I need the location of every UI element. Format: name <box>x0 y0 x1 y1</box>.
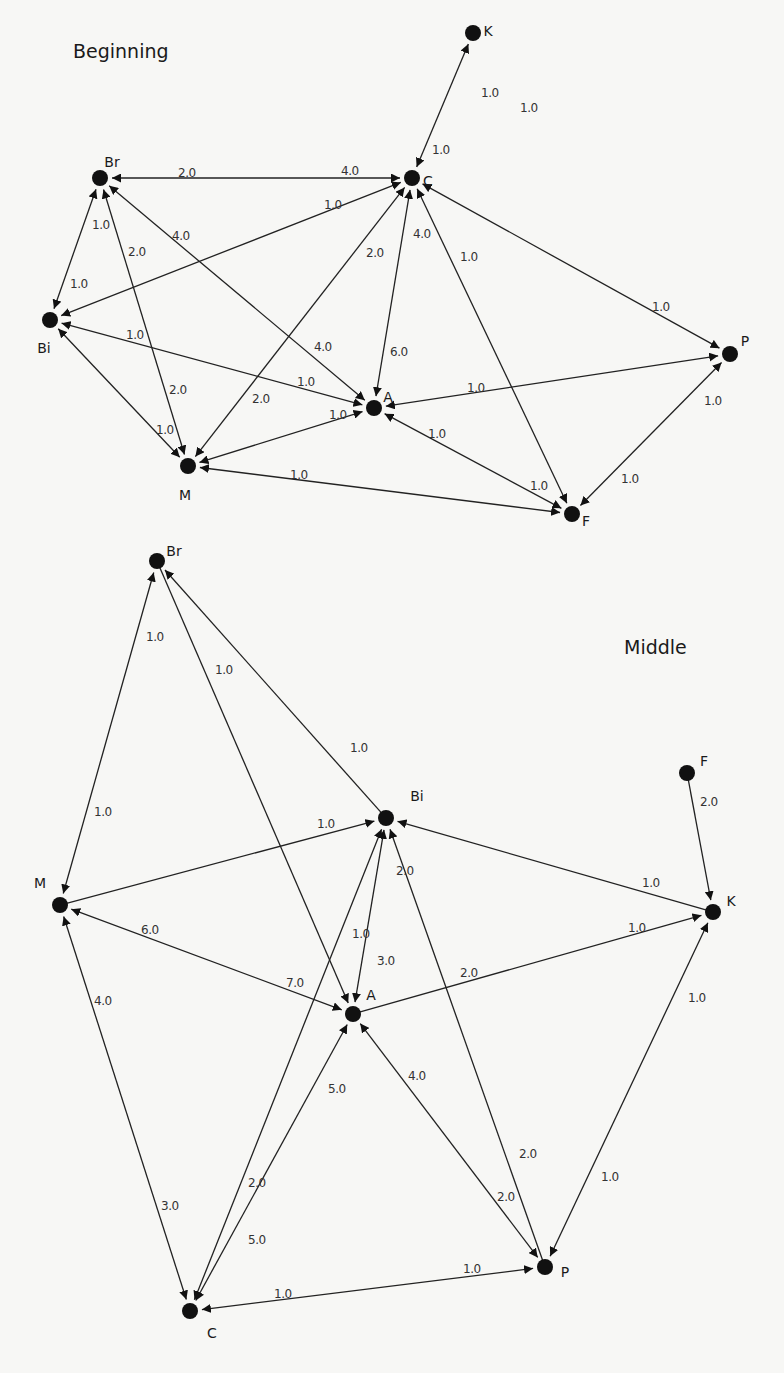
edge-weight-label: 2.0 <box>248 1176 266 1190</box>
edge-labels-beginning: 1.01.02.04.01.01.01.02.02.04.04.01.01.01… <box>70 86 722 493</box>
edge-weight-label: 2.0 <box>252 392 270 406</box>
node-k <box>705 904 721 920</box>
edge-weight-label: 5.0 <box>328 1082 346 1096</box>
edge-weight-label: 2.0 <box>519 1147 537 1161</box>
nodes-beginning: KCBrBiAMPF <box>37 23 749 529</box>
edge-weight-label: 2.0 <box>178 166 196 180</box>
edge-p-a <box>360 1024 537 1258</box>
edge-m-c <box>64 916 187 1299</box>
edge-weight-label: 1.0 <box>94 805 112 819</box>
edge-f-p <box>580 363 721 506</box>
edge-weight-label: 2.0 <box>169 383 187 397</box>
edge-weight-label: 2.0 <box>396 864 414 878</box>
node-label-m: M <box>34 875 46 891</box>
edge-weight-label: 1.0 <box>704 394 722 408</box>
node-label-k: K <box>726 893 736 909</box>
nodes-middle: BrBiMAKFCP <box>34 543 736 1341</box>
node-label-f: F <box>582 513 590 529</box>
edges-beginning <box>54 44 722 512</box>
edge-weight-label: 2.0 <box>700 795 718 809</box>
edge-weight-label: 1.0 <box>601 1170 619 1184</box>
edge-a-p <box>386 356 718 406</box>
edge-weight-label: 6.0 <box>141 923 159 937</box>
edge-weight-label: 4.0 <box>172 229 190 243</box>
edge-labels-middle: 1.01.01.01.01.01.02.02.03.01.02.06.07.02… <box>94 630 718 1301</box>
edge-weight-label: 1.0 <box>688 991 706 1005</box>
node-f <box>679 765 695 781</box>
node-label-p: P <box>741 333 749 349</box>
edge-a-c <box>376 190 410 396</box>
edge-weight-label: 1.0 <box>530 479 548 493</box>
edge-c-f <box>417 189 567 503</box>
edge-weight-label: 2.0 <box>366 246 384 260</box>
edge-weight-label: 1.0 <box>274 1287 292 1301</box>
edge-weight-label: 6.0 <box>390 345 408 359</box>
edge-weight-label: 1.0 <box>621 472 639 486</box>
node-c <box>404 170 420 186</box>
edge-weight-label: 1.0 <box>92 218 110 232</box>
edge-weight-label: 1.0 <box>463 1262 481 1276</box>
node-a <box>345 1006 361 1022</box>
node-label-m: M <box>179 487 191 503</box>
edges-middle <box>63 565 711 1309</box>
edge-weight-label: 4.0 <box>341 164 359 178</box>
edge-br-a <box>159 565 348 1003</box>
edge-weight-label: 1.0 <box>467 381 485 395</box>
graph-beginning: Beginning 1.01.02.04.01.01.01.02.02.04.0… <box>37 23 749 529</box>
edge-m-f <box>200 467 560 512</box>
floating-weight-label: 1.0 <box>520 101 538 115</box>
network-diagram-canvas: Beginning 1.01.02.04.01.01.01.02.02.04.0… <box>0 0 784 1373</box>
edge-c-bi <box>194 829 381 1300</box>
node-label-k: K <box>483 23 493 39</box>
edge-weight-label: 4.0 <box>413 227 431 241</box>
node-br <box>149 553 165 569</box>
edge-bi-c <box>61 182 401 315</box>
edge-weight-label: 1.0 <box>297 375 315 389</box>
edge-weight-label: 7.0 <box>286 976 304 990</box>
edge-weight-label: 4.0 <box>408 1069 426 1083</box>
edge-weight-label: 1.0 <box>642 876 660 890</box>
node-p <box>537 1259 553 1275</box>
edge-weight-label: 1.0 <box>146 630 164 644</box>
node-m <box>180 458 196 474</box>
node-label-a: A <box>366 987 376 1003</box>
edge-c-a <box>196 1025 347 1301</box>
edge-weight-label: 1.0 <box>432 143 450 157</box>
node-bi <box>378 810 394 826</box>
edge-c-p <box>202 1268 533 1309</box>
node-p <box>722 346 738 362</box>
edge-a-bi <box>62 323 363 405</box>
edge-p-bi <box>390 829 543 1262</box>
edge-weight-label: 1.0 <box>317 817 335 831</box>
edge-weight-label: 1.0 <box>352 927 370 941</box>
edge-weight-label: 2.0 <box>497 1190 515 1204</box>
edge-m-br <box>63 573 153 894</box>
edge-weight-label: 1.0 <box>156 423 174 437</box>
edge-a-br <box>109 186 365 401</box>
node-label-br: Br <box>104 154 120 170</box>
node-label-f: F <box>700 753 708 769</box>
edge-m-a <box>71 909 342 1010</box>
edge-m-bi <box>58 329 180 458</box>
edge-bi-br <box>165 570 383 814</box>
edge-weight-label: 1.0 <box>126 328 144 342</box>
edge-k-p <box>550 923 708 1256</box>
node-label-br: Br <box>166 543 182 559</box>
edge-weight-label: 1.0 <box>350 741 368 755</box>
node-br <box>92 170 108 186</box>
edge-weight-label: 1.0 <box>215 663 233 677</box>
edge-weight-label: 4.0 <box>94 994 112 1008</box>
edge-weight-label: 3.0 <box>377 954 395 968</box>
graph-title-beginning: Beginning <box>73 40 169 62</box>
edge-m-bi <box>65 821 375 904</box>
edge-weight-label: 1.0 <box>652 300 670 314</box>
node-label-bi: Bi <box>37 340 51 356</box>
edge-weight-label: 1.0 <box>324 198 342 212</box>
node-label-c: C <box>207 1325 217 1341</box>
node-k <box>465 25 481 41</box>
edge-weight-label: 1.0 <box>329 408 347 422</box>
node-label-p: P <box>561 1264 569 1280</box>
edge-m-c <box>195 187 404 456</box>
edge-weight-label: 1.0 <box>428 427 446 441</box>
node-label-c: C <box>423 173 433 189</box>
